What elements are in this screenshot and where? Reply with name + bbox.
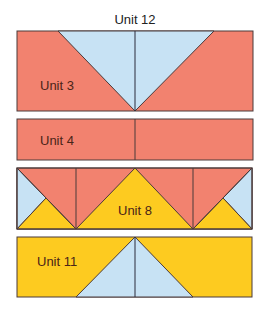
unit4-block: Unit 4 — [17, 119, 253, 160]
quilt-unit-diagram: Unit 12 Unit 3 Unit 4 Unit 8 Unit 11 — [0, 0, 266, 315]
unit8-label: Unit 8 — [118, 203, 152, 218]
unit8-block: Unit 8 — [17, 168, 252, 229]
unit4-label: Unit 4 — [40, 133, 74, 148]
unit11-block: Unit 11 — [17, 237, 252, 297]
unit3-block: Unit 3 — [17, 31, 253, 111]
unit11-label: Unit 11 — [37, 254, 77, 269]
diagram-title: Unit 12 — [114, 12, 155, 27]
unit3-label: Unit 3 — [40, 78, 74, 93]
